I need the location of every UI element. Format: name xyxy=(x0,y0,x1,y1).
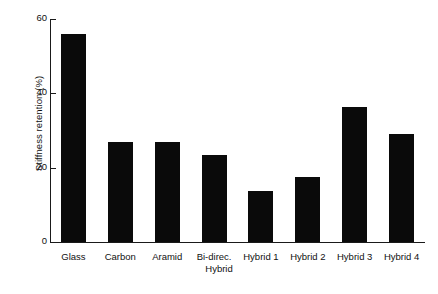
y-axis-tick: 20 xyxy=(10,168,56,169)
x-axis-tick-label: Glass xyxy=(61,251,85,262)
x-axis-tick-label: Aramid xyxy=(152,251,182,262)
x-axis-tick-label: Hybrid 4 xyxy=(384,251,419,262)
y-axis-tick-label: 60 xyxy=(36,12,47,23)
x-axis-title: Hybrid xyxy=(0,263,438,274)
plot-area: 0204060 GlassCarbonAramidBi-direc.Hybrid… xyxy=(50,19,425,242)
x-axis-tick-label: Bi-direc. xyxy=(197,251,232,262)
bar xyxy=(248,191,273,242)
y-axis-tick-mark xyxy=(50,19,56,20)
y-axis-tick-mark xyxy=(50,242,56,243)
y-axis-tick-label: 0 xyxy=(42,235,47,246)
x-axis-tick-label: Hybrid 1 xyxy=(243,251,278,262)
y-axis-title: Stiffness retention (%) xyxy=(33,24,44,224)
bar xyxy=(61,34,86,242)
x-axis-tick-label: Carbon xyxy=(105,251,136,262)
bar-chart-figure: Stiffness retention (%) 0204060 GlassCar… xyxy=(0,0,438,294)
y-axis-tick: 40 xyxy=(10,93,56,94)
bar xyxy=(108,142,133,242)
bar xyxy=(202,155,227,242)
y-axis-tick-mark xyxy=(50,168,56,169)
y-axis-tick-label: 20 xyxy=(36,161,47,172)
y-axis-spine xyxy=(50,19,51,242)
y-axis-tick-label: 40 xyxy=(36,86,47,97)
y-axis-tick: 0 xyxy=(10,242,56,243)
y-axis-tick-mark xyxy=(50,93,56,94)
bar xyxy=(155,142,180,242)
bar xyxy=(295,177,320,242)
bar xyxy=(342,107,367,242)
bar xyxy=(389,134,414,242)
x-axis-tick-label: Hybrid 3 xyxy=(337,251,372,262)
y-axis-tick: 60 xyxy=(10,19,56,20)
x-axis-spine xyxy=(50,242,425,243)
x-axis-tick-label: Hybrid 2 xyxy=(290,251,325,262)
